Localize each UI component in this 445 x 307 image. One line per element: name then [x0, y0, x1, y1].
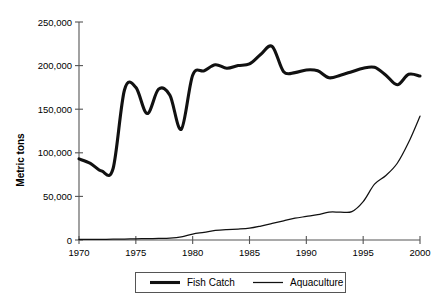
y-tick-label: 0	[67, 235, 72, 246]
legend-label-aquaculture: Aquaculture	[290, 277, 344, 288]
x-tick-label: 2000	[409, 247, 430, 258]
series-line-aquaculture	[79, 116, 420, 239]
x-tick-label: 1970	[68, 247, 89, 258]
x-tick-label: 1995	[353, 247, 374, 258]
x-tick-label: 1975	[125, 247, 146, 258]
series-line-fish-catch	[79, 46, 420, 176]
x-tick-label: 1985	[239, 247, 260, 258]
x-tick-label: 1990	[296, 247, 317, 258]
y-tick-label: 150,000	[38, 104, 72, 115]
y-tick-label: 250,000	[38, 17, 72, 28]
y-tick-label: 200,000	[38, 60, 72, 71]
legend: Fish Catch Aquaculture	[136, 273, 346, 293]
y-axis-title: Metric tons	[15, 133, 26, 187]
y-tick-label: 100,000	[38, 147, 72, 158]
y-tick-label: 50,000	[43, 191, 72, 202]
y-axis-tick-labels: 050,000100,000150,000200,000250,000	[38, 17, 72, 246]
y-axis-title-group: Metric tons	[15, 133, 26, 187]
line-chart: Metric tons 050,000100,000150,000200,000…	[0, 0, 445, 307]
chart-container: Metric tons 050,000100,000150,000200,000…	[0, 0, 445, 307]
x-axis-tick-labels: 1970197519801985199019952000	[68, 247, 430, 258]
legend-label-fish-catch: Fish Catch	[187, 277, 235, 288]
x-tick-label: 1980	[182, 247, 203, 258]
